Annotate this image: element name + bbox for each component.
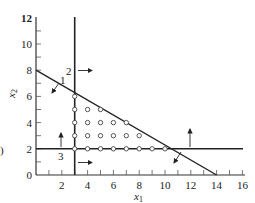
x-tick-14: 14	[211, 179, 223, 191]
integer-point	[137, 147, 141, 151]
arrow-constraint-1-upper	[52, 83, 59, 93]
constraint-label-1: 1	[60, 74, 66, 86]
integer-point	[98, 134, 102, 138]
x-tick-4: 4	[85, 179, 91, 191]
constraint-label-2: 2	[66, 65, 72, 77]
y-tick-labels: 0 2 4 6 8 10 12	[21, 12, 33, 182]
integer-point	[73, 120, 77, 124]
cropped-paren: )	[0, 144, 4, 157]
x-tick-16: 16	[237, 179, 249, 191]
integer-point	[124, 120, 128, 124]
x-tick-labels: 2 4 6 8 10 12 14 16	[59, 179, 248, 191]
arrow-constraint-1-lower	[174, 152, 181, 163]
integer-point	[124, 147, 128, 151]
x-tick-12: 12	[185, 179, 196, 191]
x-tick-2: 2	[59, 179, 65, 191]
constraint-label-3: 3	[58, 150, 64, 162]
integer-point	[85, 147, 89, 151]
integer-point	[111, 147, 115, 151]
y-tick-12: 12	[21, 12, 33, 24]
integer-point	[150, 147, 154, 151]
integer-point	[111, 120, 115, 124]
integer-point	[85, 120, 89, 124]
integer-programming-diagram: 2 4 6 8 10 12 14 16 0 2 4 6 8 10 12 x1 x…	[0, 0, 255, 203]
x-axis-label: x1	[133, 190, 143, 203]
y-tick-8: 8	[27, 64, 33, 76]
integer-point	[124, 134, 128, 138]
y-tick-0: 0	[27, 169, 33, 181]
y-axis-ticks	[36, 31, 41, 162]
integer-point	[73, 107, 77, 111]
integer-point	[163, 147, 167, 151]
integer-point	[98, 107, 102, 111]
integer-point	[73, 94, 77, 98]
integer-point	[137, 134, 141, 138]
integer-point	[73, 147, 77, 151]
integer-point	[85, 134, 89, 138]
integer-points	[73, 94, 168, 151]
integer-point	[85, 107, 89, 111]
y-tick-4: 4	[27, 117, 33, 129]
x-tick-10: 10	[160, 179, 172, 191]
y-tick-6: 6	[27, 90, 33, 102]
integer-point	[73, 134, 77, 138]
integer-point	[111, 134, 115, 138]
integer-point	[98, 147, 102, 151]
x-tick-6: 6	[111, 179, 117, 191]
y-axis-label: x2	[5, 89, 19, 99]
y-tick-2: 2	[27, 143, 33, 155]
y-tick-10: 10	[21, 38, 33, 50]
integer-point	[98, 120, 102, 124]
